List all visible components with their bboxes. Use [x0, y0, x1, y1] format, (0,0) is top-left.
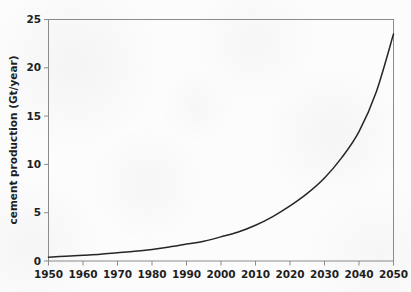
x-tick-label: 1980: [137, 268, 166, 280]
x-tick-label: 1960: [68, 268, 97, 280]
x-tick-label: 1950: [34, 268, 63, 280]
y-axis-title: cement production (Gt/year): [7, 56, 19, 225]
x-tick-label: 2030: [310, 268, 339, 280]
y-axis-tick-labels: 25 20 15 10 5 0: [26, 13, 41, 267]
plot-frame: [49, 20, 394, 262]
y-tick-label: 10: [26, 158, 41, 170]
x-tick-label: 1990: [172, 268, 201, 280]
x-axis-ticks: [49, 261, 394, 266]
x-tick-label: 2020: [275, 268, 304, 280]
y-axis-ticks: [44, 20, 49, 262]
y-tick-label: 15: [26, 110, 41, 122]
x-tick-label: 1970: [103, 268, 132, 280]
cement-production-curve: [49, 34, 394, 257]
y-tick-label: 5: [34, 206, 41, 218]
y-tick-label: 20: [26, 61, 41, 73]
x-tick-label: 2000: [206, 268, 235, 280]
x-tick-label: 2040: [344, 268, 373, 280]
y-tick-label: 25: [26, 13, 41, 25]
x-tick-label: 2010: [241, 268, 270, 280]
cement-production-line-chart: 25 20 15 10 5 0 1950 1960 1970 1980: [0, 0, 411, 292]
chart-page: 25 20 15 10 5 0 1950 1960 1970 1980: [0, 0, 411, 292]
x-tick-label: 2050: [379, 268, 408, 280]
y-tick-label: 0: [34, 255, 41, 267]
x-axis-tick-labels: 1950 1960 1970 1980 1990 2000 2010 2020 …: [34, 268, 408, 280]
